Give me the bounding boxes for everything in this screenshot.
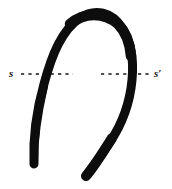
- section-label-s-prime: s′: [154, 68, 161, 79]
- figure-background: [0, 0, 172, 189]
- section-diagram-svg: [0, 0, 172, 189]
- figure-canvas: s s′: [0, 0, 172, 189]
- section-label-s: s: [9, 68, 13, 79]
